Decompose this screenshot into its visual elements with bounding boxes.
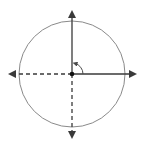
unit-circle-diagram <box>0 0 144 149</box>
angle-arc-icon <box>75 63 83 74</box>
origin-point <box>70 72 75 77</box>
